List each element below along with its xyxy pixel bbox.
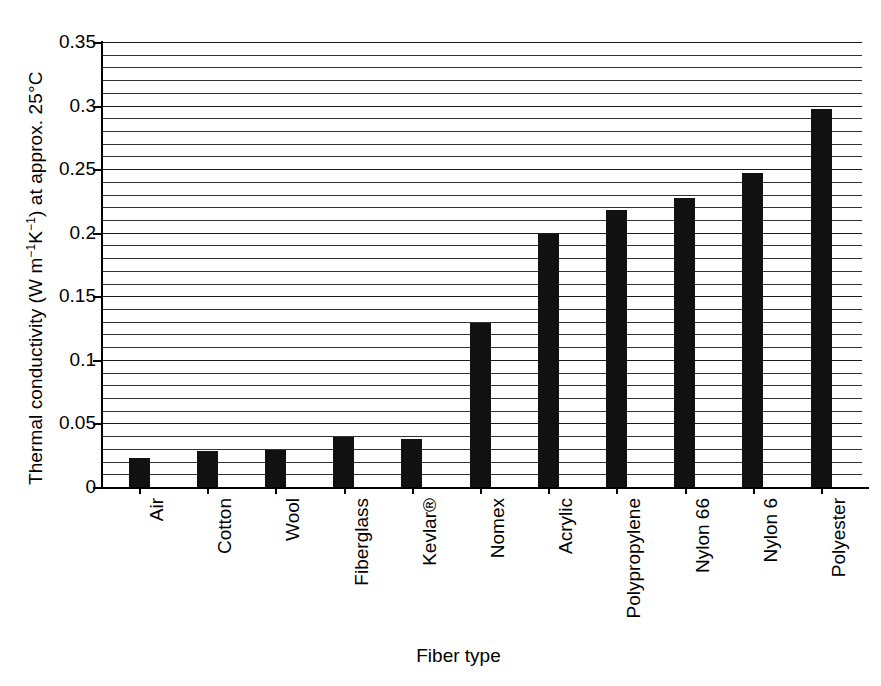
x-axis-category-label: Acrylic xyxy=(555,498,577,554)
gridline xyxy=(101,131,862,132)
x-axis-category-label: Air xyxy=(146,498,168,521)
y-axis-title-container: Thermal conductivity (W m−1K−1) at appro… xyxy=(0,30,34,490)
y-axis-tick-mark xyxy=(93,106,102,108)
gridline xyxy=(101,67,862,68)
y-axis-tick-labels: 00.050.10.150.20.250.30.35 xyxy=(30,0,96,686)
x-axis-title-text: Fiber type xyxy=(416,645,500,666)
x-axis-category-label: Cotton xyxy=(214,498,236,554)
bar-chart-figure: Thermal conductivity (W m−1K−1) at appro… xyxy=(0,0,881,686)
y-axis-tick-label: 0.05 xyxy=(59,412,96,434)
gridline xyxy=(101,156,862,157)
bar[interactable] xyxy=(401,439,422,487)
y-axis-tick-mark xyxy=(93,487,102,489)
x-axis-category-label: Polyester xyxy=(828,498,850,577)
bar[interactable] xyxy=(129,458,150,487)
x-axis-category-labels: AirCottonWoolFiberglassKevlar®NomexAcryl… xyxy=(101,492,869,622)
bar[interactable] xyxy=(742,173,763,487)
gridline xyxy=(101,55,862,56)
y-axis-tick-mark xyxy=(93,169,102,171)
bar[interactable] xyxy=(197,451,218,487)
x-axis-category-label: Wool xyxy=(282,498,304,541)
y-axis-tick-mark xyxy=(93,296,102,298)
y-axis-tick-mark xyxy=(93,42,102,44)
x-axis-category-label: Nylon 66 xyxy=(692,498,714,573)
x-axis-category-label: Nylon 6 xyxy=(760,498,782,562)
gridline xyxy=(101,169,862,170)
y-axis-tick-label: 0.15 xyxy=(59,285,96,307)
gridline xyxy=(101,80,862,81)
y-axis-tick-label: 0.35 xyxy=(59,31,96,53)
y-axis-tick-mark xyxy=(93,360,102,362)
y-axis-tick-label: 0.25 xyxy=(59,158,96,180)
bar[interactable] xyxy=(538,234,559,487)
x-axis-category-label: Fiberglass xyxy=(351,498,373,586)
bar[interactable] xyxy=(470,323,491,487)
gridline xyxy=(101,118,862,119)
y-axis-tick-mark xyxy=(93,423,102,425)
gridline xyxy=(101,144,862,145)
x-axis-title: Fiber type xyxy=(0,645,881,667)
gridline xyxy=(101,106,862,107)
bar[interactable] xyxy=(606,210,627,487)
gridline xyxy=(101,42,862,43)
bar[interactable] xyxy=(811,109,832,487)
plot-area xyxy=(101,42,862,487)
gridline xyxy=(101,93,862,94)
x-axis-category-label: Polypropylene xyxy=(623,498,645,618)
x-axis-category-label: Nomex xyxy=(487,498,509,558)
y-axis-line xyxy=(101,41,103,488)
bar[interactable] xyxy=(674,198,695,487)
bar[interactable] xyxy=(265,450,286,487)
bar[interactable] xyxy=(333,437,354,487)
x-axis-category-label: Kevlar® xyxy=(419,498,441,566)
y-axis-tick-mark xyxy=(93,233,102,235)
